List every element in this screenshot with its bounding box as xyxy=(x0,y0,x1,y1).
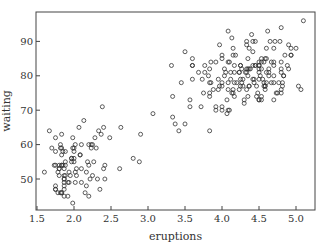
data-point xyxy=(79,143,83,147)
data-point xyxy=(226,29,230,33)
data-point xyxy=(301,19,305,23)
data-point xyxy=(190,57,194,61)
y-tick-label: 50 xyxy=(20,174,33,185)
data-point xyxy=(88,177,92,181)
data-point xyxy=(264,46,268,50)
data-point xyxy=(232,81,236,85)
data-point xyxy=(287,43,291,47)
data-point xyxy=(226,81,230,85)
data-point xyxy=(83,191,87,195)
data-point xyxy=(169,63,173,67)
data-point xyxy=(230,36,234,40)
data-point xyxy=(272,46,276,50)
data-point xyxy=(283,53,287,57)
y-tick-label: 80 xyxy=(20,70,33,81)
y-axis-label: waiting xyxy=(0,90,13,132)
y-axis-ticks: 5060708090 xyxy=(20,36,40,185)
data-point xyxy=(209,60,213,64)
data-point xyxy=(278,39,282,43)
x-tick-label: 4.5 xyxy=(251,213,267,224)
data-point xyxy=(250,33,254,37)
data-point xyxy=(84,170,88,174)
data-point xyxy=(203,63,207,67)
x-tick-label: 3.0 xyxy=(140,213,156,224)
data-point xyxy=(273,39,277,43)
data-point xyxy=(60,132,64,136)
data-point xyxy=(171,115,175,119)
data-point xyxy=(188,98,192,102)
data-point xyxy=(190,77,194,81)
data-point xyxy=(251,50,255,54)
data-point xyxy=(171,94,175,98)
data-point xyxy=(50,146,54,150)
data-point xyxy=(137,160,141,164)
data-point xyxy=(206,74,210,78)
data-point xyxy=(246,57,250,61)
data-point xyxy=(118,167,122,171)
data-point xyxy=(214,60,218,64)
data-point xyxy=(211,88,215,92)
data-point xyxy=(79,180,83,184)
data-point xyxy=(226,88,230,92)
data-point xyxy=(42,170,46,174)
x-tick-label: 2.5 xyxy=(103,213,119,224)
data-point xyxy=(247,84,251,88)
data-point xyxy=(208,129,212,133)
x-tick-label: 3.5 xyxy=(177,213,193,224)
data-points xyxy=(42,19,305,205)
data-point xyxy=(71,136,75,140)
data-point xyxy=(296,84,300,88)
y-tick-label: 60 xyxy=(20,139,33,150)
data-point xyxy=(199,105,203,109)
data-point xyxy=(82,119,86,123)
data-point xyxy=(47,129,51,133)
data-point xyxy=(183,122,187,126)
x-tick-label: 4.0 xyxy=(214,213,230,224)
data-point xyxy=(246,94,250,98)
data-point xyxy=(77,125,81,129)
data-point xyxy=(139,132,143,136)
data-point xyxy=(216,77,220,81)
data-point xyxy=(188,105,192,109)
data-point xyxy=(98,187,102,191)
data-point xyxy=(94,146,98,150)
data-point xyxy=(266,29,270,33)
data-point xyxy=(95,177,99,181)
data-point xyxy=(54,149,58,153)
x-tick-label: 5.0 xyxy=(288,213,304,224)
data-point xyxy=(79,167,83,171)
data-point xyxy=(100,105,104,109)
data-point xyxy=(183,50,187,54)
data-point xyxy=(177,129,181,133)
data-point xyxy=(272,98,276,102)
y-tick-label: 70 xyxy=(20,105,33,116)
data-point xyxy=(279,26,283,30)
data-point xyxy=(218,43,222,47)
data-point xyxy=(54,136,58,140)
x-tick-label: 2.0 xyxy=(66,213,82,224)
data-point xyxy=(203,70,207,74)
data-point xyxy=(103,177,107,181)
data-point xyxy=(294,46,298,50)
data-point xyxy=(234,53,238,57)
data-point xyxy=(225,98,229,102)
data-point xyxy=(289,53,293,57)
data-point xyxy=(272,74,276,78)
data-point xyxy=(173,122,177,126)
data-point xyxy=(87,194,91,198)
data-point xyxy=(208,67,212,71)
data-point xyxy=(102,125,106,129)
data-point xyxy=(73,180,77,184)
data-point xyxy=(197,70,201,74)
data-point xyxy=(231,46,235,50)
data-point xyxy=(131,156,135,160)
x-tick-label: 1.5 xyxy=(29,213,45,224)
x-axis-label: eruptions xyxy=(149,230,203,243)
data-point xyxy=(71,201,75,205)
data-point xyxy=(84,184,88,188)
y-tick-label: 90 xyxy=(20,36,33,47)
data-point xyxy=(78,153,82,157)
data-point xyxy=(97,129,101,133)
data-point xyxy=(190,63,194,67)
data-point xyxy=(268,39,272,43)
